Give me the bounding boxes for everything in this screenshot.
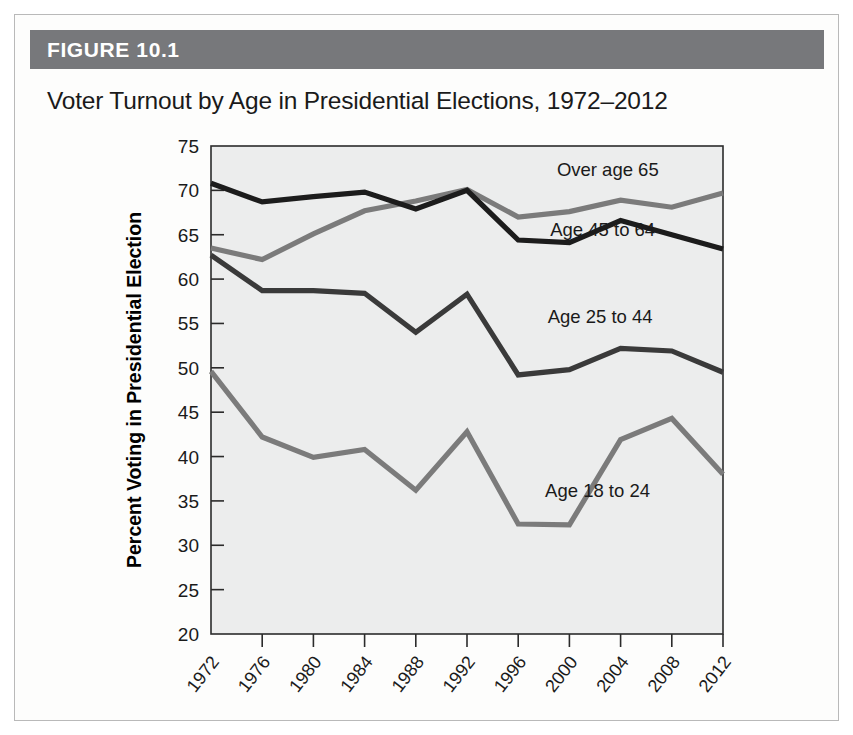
y-axis-tick-label: 65 [178, 225, 199, 246]
x-axis-tick-label: 1992 [439, 652, 479, 696]
y-axis-tick-label: 50 [178, 358, 199, 379]
y-axis-tick-label: 75 [178, 136, 199, 157]
x-axis-tick-label: 1996 [490, 652, 530, 696]
line-chart-svg: 202530354045505560657075 197219761980198… [15, 15, 840, 722]
series-inline-label: Age 18 to 24 [545, 480, 650, 501]
y-axis-tick-label: 35 [178, 491, 199, 512]
x-axis-tick-label: 1984 [336, 652, 376, 696]
x-axis-tick-label: 2008 [644, 652, 684, 696]
x-axis-tick-label: 1972 [183, 652, 223, 696]
y-axis-tick-label: 70 [178, 180, 199, 201]
chart-plot-area: 202530354045505560657075 197219761980198… [15, 15, 840, 722]
y-axis-tick-label: 60 [178, 269, 199, 290]
y-axis-tick-label: 45 [178, 402, 199, 423]
y-axis-title: Percent Voting in Presidential Election [123, 212, 145, 568]
series-inline-label: Over age 65 [557, 159, 659, 180]
figure-card: FIGURE 10.1 Voter Turnout by Age in Pres… [14, 14, 839, 721]
y-axis-tick-label: 55 [178, 313, 199, 334]
x-axis-tick-label: 1988 [388, 652, 428, 696]
y-axis-tick-label: 40 [178, 447, 199, 468]
x-axis-tick-label: 2012 [695, 652, 735, 696]
x-axis-tick-label: 1980 [285, 652, 325, 696]
x-axis-tick-label: 1976 [234, 652, 274, 696]
x-axis-ticks: 1972197619801984198819921996200020042008… [183, 634, 735, 696]
series-inline-label: Age 25 to 44 [548, 306, 653, 327]
y-axis-tick-label: 30 [178, 535, 199, 556]
series-inline-label: Age 45 to 64 [550, 219, 655, 240]
x-axis-tick-label: 2000 [541, 652, 581, 696]
y-axis-tick-label: 25 [178, 580, 199, 601]
y-axis-tick-label: 20 [178, 624, 199, 645]
x-axis-tick-label: 2004 [592, 652, 632, 696]
